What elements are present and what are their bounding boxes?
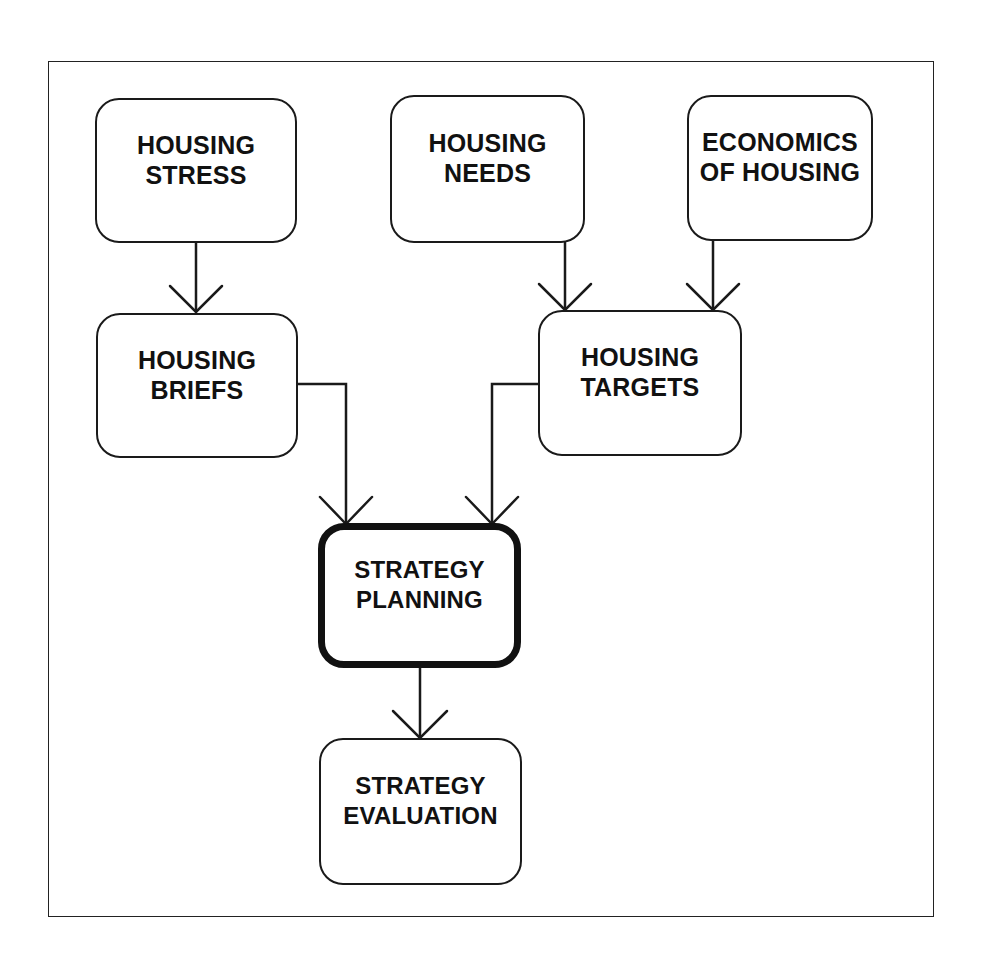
node-label-line: TARGETS: [581, 372, 700, 402]
node-label-line: EVALUATION: [343, 801, 497, 831]
node-housing-needs: HOUSING NEEDS: [390, 95, 585, 243]
node-label-line: PLANNING: [356, 585, 483, 615]
node-housing-stress: HOUSING STRESS: [95, 98, 297, 243]
node-strategy-evaluation: STRATEGY EVALUATION: [319, 738, 522, 885]
node-label-line: HOUSING: [581, 342, 699, 372]
node-label-line: STRATEGY: [355, 771, 486, 801]
node-label-line: STRESS: [145, 160, 246, 190]
node-label-line: HOUSING: [137, 130, 255, 160]
node-housing-targets: HOUSING TARGETS: [538, 310, 742, 456]
node-housing-briefs: HOUSING BRIEFS: [96, 313, 298, 458]
node-label-line: STRATEGY: [354, 555, 485, 585]
node-label-line: BRIEFS: [151, 375, 244, 405]
node-label-line: OF HOUSING: [700, 157, 860, 187]
node-label-line: HOUSING: [428, 128, 546, 158]
node-strategy-planning: STRATEGY PLANNING: [318, 523, 521, 668]
node-label-line: NEEDS: [444, 158, 531, 188]
node-economics-of-housing: ECONOMICS OF HOUSING: [687, 95, 873, 241]
node-label-line: HOUSING: [138, 345, 256, 375]
node-label-line: ECONOMICS: [702, 127, 858, 157]
